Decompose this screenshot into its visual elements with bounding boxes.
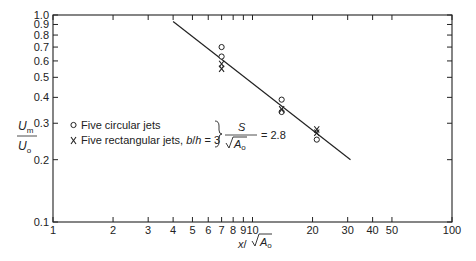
- x-tick-label: 2: [110, 224, 116, 236]
- svg-text:Uo: Uo: [18, 139, 32, 155]
- legend-circle-icon: [71, 122, 76, 127]
- y-tick-label: 1.0: [34, 9, 49, 21]
- svg-text:Um: Um: [18, 119, 34, 135]
- chart: 12345678910203040501000.10.20.30.40.50.6…: [0, 0, 476, 261]
- x-tick-label: 50: [386, 224, 398, 236]
- svg-text:x/: x/: [237, 238, 248, 250]
- x-tick-label: 8: [230, 224, 236, 236]
- x-tick-label: 3: [145, 224, 151, 236]
- y-tick-label: 0.1: [34, 216, 49, 228]
- svg-text:= 2.8: = 2.8: [261, 129, 286, 141]
- legend-cross-icon: [71, 137, 76, 144]
- svg-text:S: S: [238, 121, 246, 133]
- x-tick-label: 1: [50, 224, 56, 236]
- x-tick-label: 5: [189, 224, 195, 236]
- x-tick-label: 20: [306, 224, 318, 236]
- data-markers: [219, 44, 319, 142]
- x-tick-label: 4: [170, 224, 176, 236]
- y-tick-label: 0.3: [34, 117, 49, 129]
- cross-marker: [314, 126, 319, 132]
- y-tick-label: 0.6: [34, 55, 49, 67]
- svg-text:Ao: Ao: [233, 138, 246, 152]
- legend-label-circular: Five circular jets: [81, 119, 161, 131]
- spacing-annotation: S Ao = 2.8: [225, 121, 286, 152]
- circle-marker: [279, 97, 284, 102]
- x-tick-label: 40: [366, 224, 378, 236]
- y-tick-label: 0.4: [34, 91, 49, 103]
- legend: Five circular jets Five rectangular jets…: [71, 119, 286, 152]
- y-tick-label: 0.7: [34, 41, 49, 53]
- circle-marker: [219, 44, 224, 49]
- svg-text:Ao: Ao: [259, 236, 272, 250]
- x-tick-label: 30: [342, 224, 354, 236]
- x-tick-label: 6: [205, 224, 211, 236]
- y-tick-label: 0.2: [34, 154, 49, 166]
- circle-marker: [314, 137, 319, 142]
- cross-marker: [219, 66, 224, 72]
- legend-label-rectangular: Five rectangular jets, b/h = 3: [81, 134, 220, 146]
- circle-marker: [219, 54, 224, 59]
- x-axis-label: x/ Ao: [237, 234, 272, 250]
- x-tick-label: 100: [443, 224, 461, 236]
- x-tick-label: 7: [219, 224, 225, 236]
- x-tick-label: 10: [246, 224, 258, 236]
- y-tick-label: 0.5: [34, 71, 49, 83]
- y-tick-label: 0.8: [34, 29, 49, 41]
